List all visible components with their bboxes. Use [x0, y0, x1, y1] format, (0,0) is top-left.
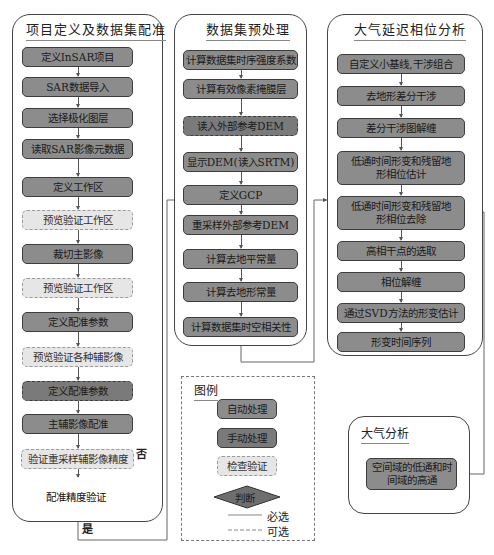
step-define-gcp[interactable]: 定义GCP — [183, 185, 298, 205]
step-select-coherent-points[interactable]: 高相干点的选取 — [337, 241, 465, 261]
step-spatial-temporal-filter[interactable]: 空间域的低通和时间域的高通 — [366, 458, 457, 490]
step-show-dem[interactable]: 显示DEM(读入SRTM) — [183, 152, 298, 172]
arrow — [78, 67, 79, 76]
legend-required: 必选 — [267, 508, 289, 524]
arrow — [241, 269, 242, 281]
legend-auto: 自动处理 — [217, 399, 277, 419]
step-read-dem[interactable]: 读入外部参考DEM — [183, 116, 298, 136]
arrow — [78, 298, 79, 311]
step-preview-workspace[interactable]: 预览验证工作区 — [22, 210, 133, 230]
arrow — [78, 469, 79, 477]
arrow — [78, 97, 79, 107]
arrow — [401, 185, 402, 195]
panel-title-atmosphere: 大气分析 — [361, 424, 409, 444]
step-lowpass-estimate[interactable]: 低通时间形变和残留地形相位估计 — [337, 151, 465, 185]
arrow — [78, 332, 79, 346]
arrow — [241, 205, 242, 214]
step-crop-master[interactable]: 裁切主影像 — [22, 244, 133, 264]
step-time-series[interactable]: 形变时间序列 — [337, 332, 465, 352]
panel-title-registration: 项目定义及数据集配准 — [26, 19, 166, 41]
arrow — [78, 367, 79, 380]
arrow — [241, 172, 242, 184]
step-phase-unwrap[interactable]: 相位解缠 — [337, 272, 465, 292]
arrow — [401, 323, 402, 331]
arrow — [241, 70, 242, 78]
step-lowpass-remove[interactable]: 低通时间形变和残留地形相位去除 — [337, 196, 465, 230]
arrow — [241, 235, 242, 248]
yes-label: 是 — [82, 520, 93, 536]
arrow — [401, 106, 402, 117]
arrow — [401, 292, 402, 302]
legend-manual: 手动处理 — [217, 428, 277, 448]
step-define-coreg-params[interactable]: 定义配准参数 — [22, 312, 133, 332]
no-label: 否 — [136, 445, 147, 461]
step-intensity-coeff[interactable]: 计算数据集时序强度系数 — [183, 50, 298, 70]
step-small-baseline[interactable]: 自定义小基线,干涉组合 — [337, 54, 465, 74]
arrow — [401, 230, 402, 240]
step-define-workspace[interactable]: 定义工作区 — [22, 177, 133, 197]
step-read-metadata[interactable]: 读取SAR影像元数据 — [22, 139, 133, 159]
step-resample-dem[interactable]: 重采样外部参考DEM — [183, 215, 298, 235]
legend-optional: 可选 — [267, 523, 289, 539]
step-unwrap-interferogram[interactable]: 差分干涉图解缠 — [337, 118, 465, 138]
arrow — [78, 128, 79, 138]
arrow — [241, 99, 242, 115]
step-sar-import[interactable]: SAR数据导入 — [22, 77, 133, 97]
step-define-coreg-params-manual[interactable]: 定义配准参数 — [22, 381, 133, 401]
arrow — [241, 302, 242, 316]
arrow — [78, 230, 79, 243]
step-preview-workspace-2[interactable]: 预览验证工作区 — [22, 278, 133, 298]
decision-label[interactable]: 配准精度验证 — [46, 489, 106, 504]
arrow — [241, 136, 242, 151]
step-valid-mask[interactable]: 计算有效像素掩膜层 — [183, 79, 298, 99]
step-dinsar[interactable]: 去地形差分干涉 — [337, 86, 465, 106]
arrow — [401, 138, 402, 150]
step-coregistration[interactable]: 主辅影像配准 — [22, 414, 133, 434]
arrow — [78, 159, 79, 176]
panel-title-atmospheric-phase: 大气延迟相位分析 — [354, 19, 466, 41]
step-svd-estimate[interactable]: 通过SVD方法的形变估计 — [337, 303, 465, 323]
arrow — [401, 74, 402, 85]
step-topo-constant[interactable]: 计算去地形常量 — [183, 282, 298, 302]
legend-check: 检查验证 — [217, 456, 277, 476]
step-preview-slaves[interactable]: 预览验证各种辅影像 — [22, 347, 133, 367]
panel-title-preprocessing: 数据集预处理 — [206, 19, 290, 41]
step-define-insar-project[interactable]: 定义InSAR项目 — [22, 47, 133, 67]
step-spatiotemporal-coherence[interactable]: 计算数据集时空相关性 — [183, 317, 298, 337]
arrow — [78, 264, 79, 277]
legend-title: 图例 — [194, 381, 218, 401]
legend-decision: 判断 — [235, 490, 255, 505]
arrow — [78, 434, 79, 448]
step-verify-resample[interactable]: 验证重采样辅影像精度 — [21, 449, 134, 469]
arrow — [78, 401, 79, 413]
arrow — [401, 261, 402, 271]
arrow — [78, 197, 79, 209]
step-select-polarization[interactable]: 选择极化图层 — [22, 108, 133, 128]
step-flat-earth[interactable]: 计算去地平常量 — [183, 249, 298, 269]
